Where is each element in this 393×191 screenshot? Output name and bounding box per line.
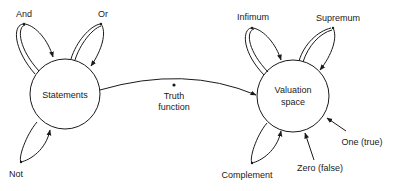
or-loop: Or bbox=[71, 9, 108, 66]
complement-loop: Complement bbox=[221, 123, 281, 180]
zero-false-arrow: Zero (false) bbox=[297, 133, 343, 173]
one-true-label: One (true) bbox=[341, 137, 382, 147]
or-label: Or bbox=[98, 9, 108, 19]
not-loop: Not bbox=[9, 122, 50, 179]
complement-label: Complement bbox=[221, 170, 273, 180]
zero-false-label: Zero (false) bbox=[297, 163, 343, 173]
statements-label: Statements bbox=[42, 90, 88, 100]
statements-node: Statements bbox=[30, 59, 100, 129]
and-label: And bbox=[16, 9, 32, 19]
valuation-space-node: Valuation space bbox=[257, 60, 329, 132]
truth-label-line1: Truth bbox=[164, 91, 185, 101]
edge-midpoint-dot bbox=[172, 83, 175, 86]
valuation-label-line2: space bbox=[281, 97, 305, 107]
algebra-diagram: Statements Valuation space Truth functio… bbox=[0, 0, 393, 191]
supremum-label: Supremum bbox=[316, 13, 360, 23]
valuation-label-line1: Valuation bbox=[275, 85, 312, 95]
not-label: Not bbox=[9, 169, 24, 179]
infimum-label: Infimum bbox=[237, 12, 269, 22]
supremum-loop: Supremum bbox=[299, 13, 360, 70]
truth-label-line2: function bbox=[158, 102, 190, 112]
one-true-arrow: One (true) bbox=[327, 118, 383, 147]
truth-function-edge: Truth function bbox=[100, 79, 256, 112]
